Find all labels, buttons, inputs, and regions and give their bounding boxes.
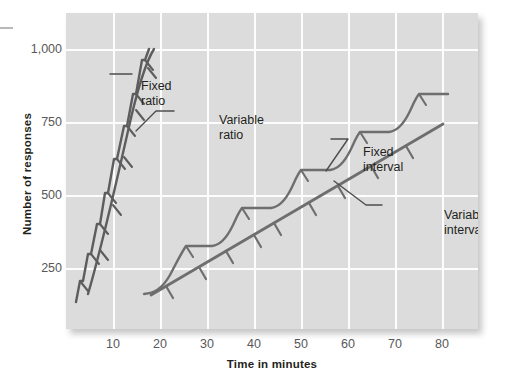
plot-panel: Fixedratio Variableratio Fixedinterval V…	[66, 13, 478, 329]
x-tick-40: 40	[234, 338, 274, 351]
y-tick-750: 750	[6, 116, 62, 129]
annotation-variable-ratio: Variableratio	[219, 113, 264, 142]
x-tick-10: 10	[93, 338, 133, 351]
plot-curves	[66, 13, 478, 329]
annotation-fixed-ratio: Fixedratio	[141, 79, 172, 108]
annotation-fixed-ratio-line2: ratio	[141, 94, 165, 108]
x-tick-30: 30	[187, 338, 227, 351]
y-tick-500: 500	[6, 189, 62, 202]
x-tick-80: 80	[422, 338, 462, 351]
annotation-fixed-interval-line2: interval	[363, 160, 403, 174]
curve-fixed-interval	[144, 94, 448, 294]
annotation-fixed-ratio-line1: Fixed	[141, 79, 172, 93]
x-tick-60: 60	[328, 338, 368, 351]
x-tick-70: 70	[375, 338, 415, 351]
annotation-variable-interval: Variableinterval	[444, 208, 478, 237]
annotation-variable-interval-line1: Variable	[444, 208, 478, 222]
annotation-variable-ratio-line2: ratio	[219, 128, 243, 142]
leader-variable-ratio	[136, 111, 174, 131]
x-tick-20: 20	[140, 338, 180, 351]
y-tick-1000: 1,000	[6, 43, 62, 56]
annotation-fixed-interval: Fixedinterval	[363, 145, 403, 174]
annotation-fixed-interval-line1: Fixed	[363, 145, 394, 159]
y-tick-250: 250	[6, 262, 62, 275]
cumulative-response-figure: Fixedratio Variableratio Fixedinterval V…	[0, 0, 507, 385]
x-axis-title: Time in minutes	[66, 358, 478, 370]
annotation-variable-interval-line2: interval	[444, 223, 478, 237]
y-axis-title: Number of responses	[21, 64, 33, 284]
annotation-variable-ratio-line1: Variable	[219, 113, 264, 127]
x-tick-50: 50	[281, 338, 321, 351]
